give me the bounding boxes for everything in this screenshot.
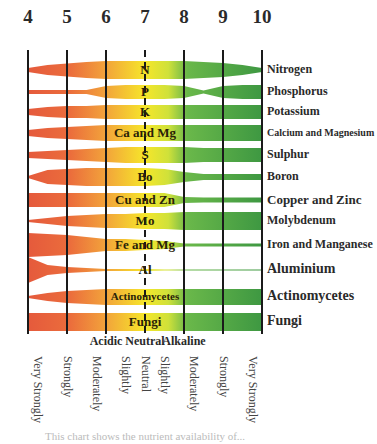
- row-label: Potassium: [267, 104, 320, 119]
- row-label: Copper and Zinc: [267, 192, 361, 208]
- row-label: Boron: [267, 169, 299, 184]
- scale-label: Slightly: [157, 356, 172, 394]
- band-label: P: [141, 84, 149, 100]
- row-label: Fungi: [267, 313, 302, 329]
- scale-label: Very Strongly: [30, 356, 45, 423]
- tick-label-8: 8: [179, 6, 189, 28]
- band-label: Fe and Mg: [115, 237, 175, 253]
- row-label: Aluminium: [267, 261, 335, 277]
- scale-label: Strongly: [60, 356, 75, 397]
- tick-label-9: 9: [218, 6, 228, 28]
- row-label: Molybdenum: [267, 213, 336, 228]
- band-label: Fungi: [129, 314, 162, 330]
- band-label: Actinomycetes: [111, 290, 179, 302]
- zone-label-neutral: Neutral: [125, 334, 164, 349]
- scale-label: Strongly: [216, 356, 231, 397]
- row-label: Phosphorus: [267, 84, 328, 99]
- scale-label: Slightly: [118, 356, 133, 394]
- scale-label: Moderately: [186, 356, 201, 411]
- tick-label-6: 6: [101, 6, 111, 28]
- band-label: S: [141, 147, 148, 163]
- ph-nutrient-chart: 45678910 NitrogenPhosphorusPotassiumCalc…: [0, 0, 377, 444]
- band-label: Mo: [136, 213, 155, 229]
- scale-label: Moderately: [89, 356, 104, 411]
- band-label: Ca and Mg: [114, 125, 176, 141]
- band-label: Cu and Zn: [115, 192, 175, 208]
- band-label: K: [140, 104, 150, 120]
- row-label: Nitrogen: [267, 62, 312, 77]
- row-label: Iron and Manganese: [267, 237, 373, 252]
- band-label: N: [140, 62, 149, 78]
- row-label: Sulphur: [267, 147, 309, 162]
- zone-label-acidic: Acidic: [90, 334, 123, 349]
- tick-label-5: 5: [62, 6, 72, 28]
- scale-label: Neutral: [138, 356, 153, 392]
- row-label: Actinomycetes: [267, 288, 354, 304]
- tick-label-4: 4: [23, 6, 33, 28]
- tick-label-10: 10: [253, 6, 272, 28]
- band-label: Al: [139, 262, 152, 278]
- zone-label-alkaline: Alkaline: [162, 334, 205, 349]
- row-label: Calcium and Magnesium: [267, 127, 374, 138]
- scale-label: Very Strongly: [245, 356, 260, 423]
- caption: This chart shows the nutrient availabili…: [45, 430, 245, 442]
- tick-label-7: 7: [140, 6, 150, 28]
- band-label: Bo: [137, 169, 152, 185]
